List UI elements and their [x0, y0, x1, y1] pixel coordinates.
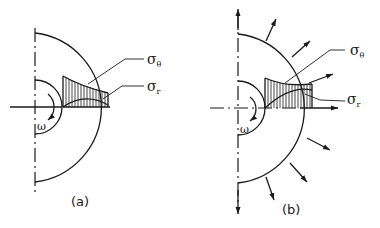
label-sigma-r: σr: [147, 78, 161, 96]
caption-a: (a): [71, 194, 89, 209]
load-arrow-icon: [292, 41, 310, 57]
label-sigma-theta: σθ: [350, 42, 365, 60]
load-arrow-icon: [309, 74, 333, 83]
rotation-arrow-icon: [250, 97, 256, 121]
label-omega: ω: [37, 120, 46, 133]
sigma-theta-curve: [265, 78, 312, 85]
panel-a: σθ σr ω (a): [10, 28, 162, 209]
sigma-theta-curve: [63, 76, 108, 93]
stress-distribution-a: [63, 76, 110, 107]
label-omega: ω: [240, 123, 249, 136]
label-sigma-r: σr: [347, 91, 361, 109]
load-arrow-icon: [307, 138, 330, 150]
load-arrow-icon: [266, 19, 276, 41]
stress-distribution-b: [265, 78, 312, 108]
caption-b: (b): [282, 202, 300, 217]
sigma-r-curve: [265, 89, 312, 108]
radial-load-arrows: [266, 19, 333, 200]
panel-b: σθ σr ω (b): [210, 9, 365, 217]
load-arrow-icon: [266, 177, 274, 200]
leader-sigma-r: [305, 94, 345, 101]
label-sigma-theta: σθ: [147, 51, 162, 69]
figure-canvas: σθ σr ω (a): [0, 0, 380, 228]
leader-sigma-r: [103, 86, 144, 99]
load-arrow-icon: [290, 163, 307, 182]
